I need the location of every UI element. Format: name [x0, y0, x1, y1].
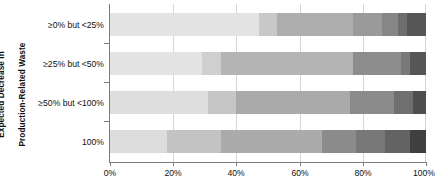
bar-row-0	[110, 13, 426, 36]
plot-area	[110, 4, 426, 162]
bar-3-segment-2	[221, 130, 322, 153]
bar-1-segment-1	[202, 52, 221, 75]
bar-1-segment-4	[401, 52, 410, 75]
bar-3-segment-5	[385, 130, 410, 153]
bar-2-segment-0	[110, 91, 208, 114]
bar-0-segment-4	[382, 13, 398, 36]
y-category-label-3: 100%	[0, 137, 104, 147]
x-tick-label-100: 100%	[401, 168, 442, 179]
x-tick-40	[236, 162, 237, 166]
x-tick-80	[363, 162, 364, 166]
y-category-label-2: ≥50% but <100%	[0, 98, 104, 108]
bar-3-segment-4	[356, 130, 384, 153]
x-tick-label-60: 60%	[277, 168, 323, 179]
bar-0-segment-3	[353, 13, 381, 36]
bar-1-segment-5	[410, 52, 426, 75]
bar-0-segment-5	[398, 13, 407, 36]
x-axis-spine	[109, 162, 427, 163]
x-tick-label-80: 80%	[340, 168, 386, 179]
bar-1-segment-3	[353, 52, 400, 75]
x-tick-60	[300, 162, 301, 166]
bar-3-segment-1	[167, 130, 221, 153]
bar-row-1	[110, 52, 426, 75]
y-category-label-1: ≥25% but <50%	[0, 59, 104, 69]
bar-0-segment-6	[407, 13, 426, 36]
bar-row-3	[110, 130, 426, 153]
stacked-bar-chart: Expected Decrease in Production-Related …	[0, 0, 442, 189]
bar-3-segment-0	[110, 130, 167, 153]
bar-3-segment-6	[410, 130, 426, 153]
bar-row-2	[110, 91, 426, 114]
x-tick-0	[110, 162, 111, 166]
bar-0-segment-2	[277, 13, 353, 36]
bar-0-segment-1	[259, 13, 278, 36]
x-tick-label-40: 40%	[213, 168, 259, 179]
bar-2-segment-2	[236, 91, 350, 114]
y-category-label-0: ≥0% but <25%	[0, 20, 104, 30]
bar-1-segment-0	[110, 52, 202, 75]
bar-3-segment-3	[322, 130, 357, 153]
bar-1-segment-2	[221, 52, 354, 75]
bar-2-segment-1	[208, 91, 236, 114]
bar-2-segment-5	[413, 91, 426, 114]
x-tick-label-0: 0%	[87, 168, 133, 179]
x-tick-label-20: 20%	[150, 168, 196, 179]
x-tick-100	[426, 162, 427, 166]
x-tick-20	[173, 162, 174, 166]
bar-0-segment-0	[110, 13, 259, 36]
bar-2-segment-4	[394, 91, 413, 114]
bar-2-segment-3	[350, 91, 394, 114]
